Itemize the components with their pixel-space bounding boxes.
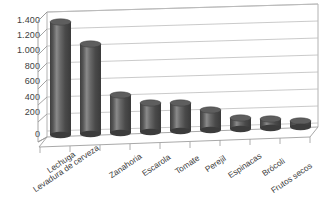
bar-escarola bbox=[140, 100, 161, 135]
bar-brocoli bbox=[260, 116, 281, 131]
bar-perejil bbox=[200, 107, 221, 133]
bar-levadura-de-cerveza bbox=[80, 41, 101, 137]
bar-espinacas bbox=[230, 115, 251, 132]
bar-frutos-secos bbox=[290, 118, 311, 130]
bar-lechuga bbox=[50, 19, 71, 138]
chart-container: 1.400 1.200 1.000 800 600 400 200 0 bbox=[0, 0, 325, 221]
y-axis bbox=[38, 12, 47, 142]
bar-zanahoria bbox=[110, 92, 131, 136]
bar-tomate bbox=[170, 100, 191, 134]
x-axis-ticks bbox=[40, 137, 310, 153]
